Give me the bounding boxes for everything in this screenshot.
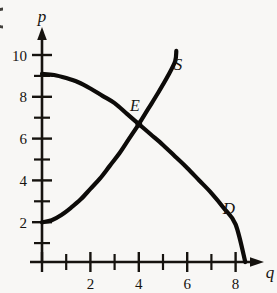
y-tick-label-2: 2 [20,215,28,231]
y-tick-label-4: 4 [20,173,28,189]
x-axis: 2 4 6 8 q [30,252,275,292]
y-axis-title: p [37,7,47,26]
x-axis-title: q [266,263,275,282]
y-axis-arrowhead [37,27,47,40]
y-tick-label-10: 10 [12,48,27,64]
x-tick-label-6: 6 [183,276,191,292]
y-tick-label-8: 8 [20,89,28,105]
equilibrium-point-dot [135,121,142,128]
cropped-figure-marker [0,9,3,27]
y-axis: 10 8 6 4 2 p [12,7,52,262]
supply-demand-chart: 10 8 6 4 2 p 2 4 6 8 [0,0,277,293]
equilibrium-point-label: E [129,97,140,114]
x-axis-arrowhead [250,257,264,267]
x-tick-label-2: 2 [87,276,95,292]
y-tick-label-6: 6 [20,131,28,147]
supply-curve-label: S [174,55,183,74]
x-tick-label-4: 4 [135,276,143,292]
demand-curve [42,74,245,262]
supply-demand-figure: 10 8 6 4 2 p 2 4 6 8 [0,0,277,293]
x-tick-label-8: 8 [232,276,240,292]
demand-curve-label: D [222,199,236,218]
